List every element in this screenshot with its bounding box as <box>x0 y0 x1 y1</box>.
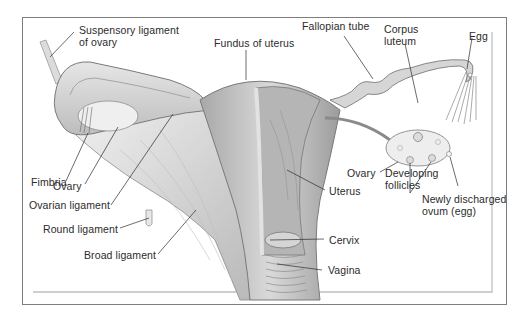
left-ovary-shape <box>78 101 138 131</box>
label-vagina: Vagina <box>328 264 361 276</box>
label-newly-discharged-ovum: Newly discharged ovum (egg) <box>422 193 506 217</box>
label-round-ligament: Round ligament <box>43 223 118 235</box>
label-cervix: Cervix <box>329 234 359 246</box>
label-developing-follicles: Developing follicles <box>385 167 439 191</box>
label-broad-ligament: Broad ligament <box>84 249 156 261</box>
label-ovarian-ligament: Ovarian ligament <box>29 199 110 211</box>
follicle-2 <box>429 155 436 162</box>
label-fundus-of-uterus: Fundus of uterus <box>214 37 294 49</box>
label-ovary-left: Ovary <box>53 180 82 192</box>
right-fimbria-shape <box>446 72 476 124</box>
corpus-luteum-shape <box>414 133 423 142</box>
follicle-1 <box>407 157 414 164</box>
label-suspensory-ligament: Suspensory ligament of ovary <box>79 24 179 48</box>
egg-in-tube-shape <box>468 73 472 77</box>
discharged-ovum-shape <box>447 152 452 157</box>
label-ovary-right: Ovary <box>347 167 376 179</box>
label-corpus-luteum: Corpus luteum <box>384 23 418 47</box>
label-egg: Egg <box>469 30 488 42</box>
suspensory-ligament-shape <box>40 40 62 84</box>
right-fallopian-tube-shape <box>330 60 473 108</box>
label-fallopian-tube: Fallopian tube <box>302 20 369 32</box>
label-uterus: Uterus <box>329 185 361 197</box>
